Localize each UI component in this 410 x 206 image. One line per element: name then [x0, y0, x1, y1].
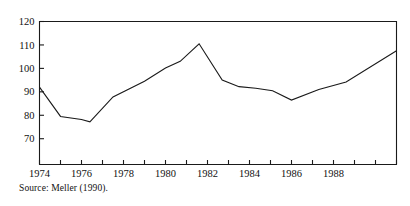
x-tick-label: 1980 [155, 168, 176, 179]
y-tick-label: 80 [24, 110, 35, 121]
x-tick-label: 1986 [281, 168, 302, 179]
y-tick-label: 120 [19, 16, 35, 27]
x-tick-label: 1978 [113, 168, 134, 179]
x-axis-ticks [40, 160, 397, 165]
x-axis-tick-labels: 19741976197819801982198419861988 [29, 168, 344, 179]
plot-frame [40, 22, 397, 165]
figure-container: 708090100110120 197419761978198019821984… [0, 0, 410, 206]
y-tick-label: 110 [19, 40, 34, 51]
x-tick-label: 1984 [239, 168, 261, 179]
y-axis-tick-labels: 708090100110120 [19, 16, 35, 144]
data-series-group [40, 44, 397, 122]
y-tick-label: 100 [19, 63, 35, 74]
source-note: Source: Meller (1990). [19, 183, 108, 193]
x-tick-label: 1976 [71, 168, 92, 179]
line-chart: 708090100110120 197419761978198019821984… [0, 0, 410, 206]
x-tick-label: 1982 [197, 168, 218, 179]
y-tick-label: 90 [24, 86, 35, 97]
x-tick-label: 1974 [29, 168, 51, 179]
y-axis-ticks [40, 22, 45, 139]
axes-border [40, 22, 397, 165]
x-tick-label: 1988 [323, 168, 344, 179]
data-line-index [40, 44, 397, 122]
y-tick-label: 70 [24, 133, 35, 144]
